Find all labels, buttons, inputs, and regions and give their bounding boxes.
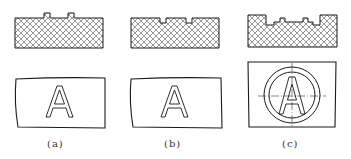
- section-b: [131, 18, 219, 48]
- section-a: [15, 13, 103, 48]
- engraving-diagram: [0, 0, 351, 159]
- caption-a: (a): [47, 138, 64, 149]
- caption-b: (b): [164, 138, 181, 149]
- plate-b: [130, 78, 222, 128]
- plate-c: [248, 62, 336, 127]
- section-c: [248, 15, 337, 47]
- plate-a: [15, 78, 105, 128]
- caption-c: (c): [282, 138, 298, 149]
